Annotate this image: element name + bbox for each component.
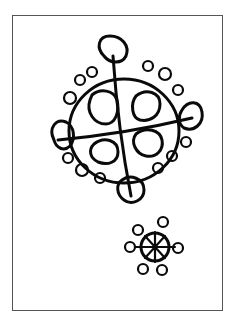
petal-right	[179, 103, 202, 129]
horizontal-stroke	[58, 118, 192, 140]
inner-loop-top-right	[133, 92, 160, 121]
drawing-canvas	[0, 0, 236, 313]
inner-loop-bottom-right	[134, 130, 163, 157]
inner-loop-bottom-left	[91, 140, 118, 164]
small-flower-motif	[125, 217, 183, 275]
inner-loop-top-left	[89, 91, 118, 124]
vertical-stroke	[113, 56, 131, 196]
large-flower-motif	[52, 36, 202, 202]
small-spokes	[135, 232, 175, 262]
